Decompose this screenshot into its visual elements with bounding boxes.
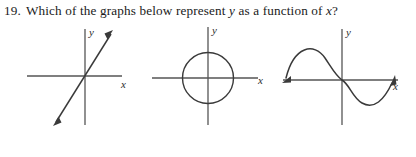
- graph-a-figure: x y: [20, 20, 150, 157]
- graph-b-y-label: y: [211, 24, 217, 36]
- question-prompt: 19.Which of the graphs below represent y…: [4, 2, 414, 20]
- graph-c-figure: x y: [280, 20, 416, 157]
- graph-c-y-label: y: [345, 26, 351, 38]
- graph-panel-c: x y (c): [280, 20, 416, 157]
- graph-b-caption: (b): [150, 156, 280, 157]
- question-text-part-2: as a function of: [235, 3, 326, 18]
- graph-b-figure: x y: [150, 20, 280, 157]
- question-text-part-1: Which of the graphs below represent: [26, 3, 229, 18]
- graph-a-arrow-lower-left-icon: [53, 117, 62, 127]
- question-page: 19.Which of the graphs below represent y…: [0, 0, 416, 157]
- question-text-part-3: ?: [332, 3, 338, 18]
- graph-a-caption: (a): [20, 156, 150, 157]
- graph-c-curve: [286, 49, 392, 105]
- graph-a-curve: [56, 34, 111, 122]
- graph-a-y-label: y: [88, 26, 94, 38]
- graph-a-x-label: x: [120, 78, 126, 90]
- graph-b-x-label: x: [257, 74, 263, 86]
- graph-panel-b: x y (b): [150, 20, 280, 157]
- graph-c-caption: (c): [280, 156, 416, 157]
- question-number: 19.: [4, 2, 21, 20]
- graph-c-x-label: x: [392, 80, 398, 92]
- graph-panel-a: x y (a): [20, 20, 150, 157]
